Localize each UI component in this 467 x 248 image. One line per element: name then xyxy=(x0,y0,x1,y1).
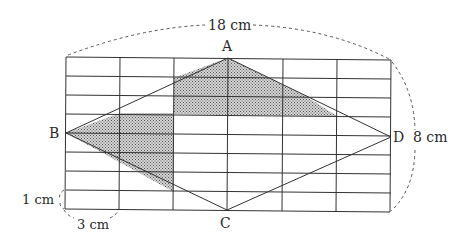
width-dimension-label: 18 cm xyxy=(208,17,251,33)
shaded-upper-region-fill xyxy=(174,58,337,116)
vertex-label-c: C xyxy=(220,215,231,231)
cell-width-label: 3 cm xyxy=(77,217,109,232)
vertex-label-b: B xyxy=(49,125,59,141)
height-dimension-label: 8 cm xyxy=(413,129,447,145)
rhombus-grid-diagram: A B C D 18 cm 8 cm 1 cm 3 cm xyxy=(0,0,467,248)
cell-height-arc xyxy=(60,190,65,209)
cell-height-label: 1 cm xyxy=(22,192,54,207)
vertex-label-a: A xyxy=(221,38,233,54)
vertex-label-d: D xyxy=(393,129,404,145)
